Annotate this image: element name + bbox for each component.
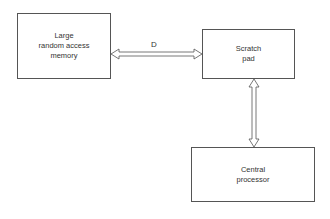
node-cpu: Central processor <box>191 147 315 202</box>
arrow-memory-scratchpad <box>111 49 202 59</box>
edge-label-d: D <box>151 40 157 49</box>
node-memory: Large random access memory <box>17 13 111 79</box>
node-memory-label: Large random access memory <box>39 31 90 61</box>
arrow-scratchpad-cpu <box>249 79 259 147</box>
node-cpu-label: Central processor <box>237 165 270 185</box>
node-scratchpad-label: Scratch pad <box>236 44 261 64</box>
node-scratchpad: Scratch pad <box>202 29 295 79</box>
